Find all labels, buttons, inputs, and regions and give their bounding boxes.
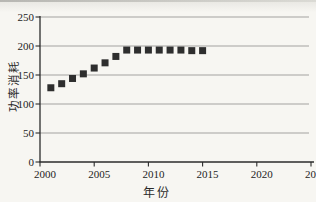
data-point-2011 — [156, 47, 163, 54]
data-point-2007 — [112, 53, 119, 60]
y-tick-label-0: 0 — [29, 156, 35, 168]
data-point-2015 — [199, 47, 206, 54]
x-tick-label-2020: 2020 — [251, 168, 274, 180]
x-tick-label-2010: 2010 — [142, 168, 165, 180]
data-point-2012 — [167, 47, 174, 54]
data-point-2004 — [80, 70, 87, 77]
data-point-2009 — [134, 47, 141, 54]
x-axis-title: 年份 — [107, 183, 207, 199]
data-point-2008 — [123, 47, 130, 54]
data-point-2014 — [188, 47, 195, 54]
power-consumption-chart: 050100150200250200020052010201520202025 — [0, 0, 316, 202]
data-point-2001 — [47, 84, 54, 91]
scatter-chart-figure: 050100150200250200020052010201520202025 … — [0, 0, 316, 202]
data-point-2013 — [177, 47, 184, 54]
data-point-2005 — [91, 65, 98, 72]
x-tick-label-2025: 2025 — [305, 168, 316, 180]
data-point-2003 — [69, 75, 76, 82]
x-tick-label-2015: 2015 — [197, 168, 220, 180]
data-point-2006 — [102, 59, 109, 66]
x-tick-label-2000: 2000 — [34, 168, 57, 180]
y-tick-label-50: 50 — [23, 127, 35, 139]
y-axis-title: 功率消耗 — [5, 26, 21, 146]
data-point-2002 — [58, 80, 65, 87]
x-tick-label-2005: 2005 — [88, 168, 111, 180]
y-tick-label-250: 250 — [18, 11, 35, 23]
data-point-2010 — [145, 47, 152, 54]
